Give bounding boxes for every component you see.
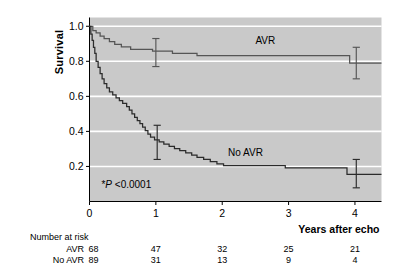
x-tick-label-1: 1 bbox=[153, 207, 159, 219]
plot-background bbox=[90, 18, 382, 202]
x-axis-title: Years after echo bbox=[298, 223, 379, 235]
risk-cell-r0-c4: 21 bbox=[350, 244, 360, 254]
risk-row-label-no-avr: No AVR bbox=[53, 255, 85, 265]
x-tick-label-3: 3 bbox=[286, 207, 292, 219]
risk-cell-r0-c1: 47 bbox=[151, 244, 161, 254]
risk-row-label-avr: AVR bbox=[66, 244, 84, 254]
x-tick-label-0: 0 bbox=[87, 207, 93, 219]
y-tick-label-2: 0.6 bbox=[69, 90, 84, 102]
avr-curve-label: AVR bbox=[255, 35, 275, 46]
y-axis-title: Survival bbox=[53, 30, 65, 74]
risk-cell-r0-c2: 32 bbox=[217, 244, 227, 254]
risk-cell-r0-c3: 25 bbox=[284, 244, 294, 254]
survival-chart-figure: 0.20.40.60.81.0 01234 AVRNo AVR*P <0.000… bbox=[0, 0, 399, 278]
y-tick-label-0: 0.2 bbox=[69, 160, 84, 172]
risk-cell-r1-c0: 89 bbox=[89, 255, 99, 265]
risk-cell-r1-c1: 31 bbox=[151, 255, 161, 265]
no-avr-curve-label: No AVR bbox=[228, 147, 263, 158]
y-tick-label-1: 0.4 bbox=[69, 125, 84, 137]
pvalue-note: *P <0.0001 bbox=[101, 179, 151, 190]
x-tick-label-2: 2 bbox=[219, 207, 225, 219]
plot-area-background bbox=[90, 18, 382, 202]
risk-cell-r1-c3: 9 bbox=[286, 255, 291, 265]
pvalue-value: <0.0001 bbox=[112, 179, 152, 190]
kaplan-meier-chart: 0.20.40.60.81.0 01234 AVRNo AVR*P <0.000… bbox=[0, 0, 399, 278]
x-tick-label-4: 4 bbox=[352, 207, 358, 219]
risk-cell-r1-c4: 4 bbox=[352, 255, 357, 265]
risk-cell-r1-c2: 13 bbox=[217, 255, 227, 265]
risk-table-header: Number at risk bbox=[30, 232, 89, 242]
risk-cell-r0-c0: 68 bbox=[89, 244, 99, 254]
y-tick-label-3: 0.8 bbox=[69, 55, 84, 67]
y-tick-label-4: 1.0 bbox=[69, 20, 84, 32]
